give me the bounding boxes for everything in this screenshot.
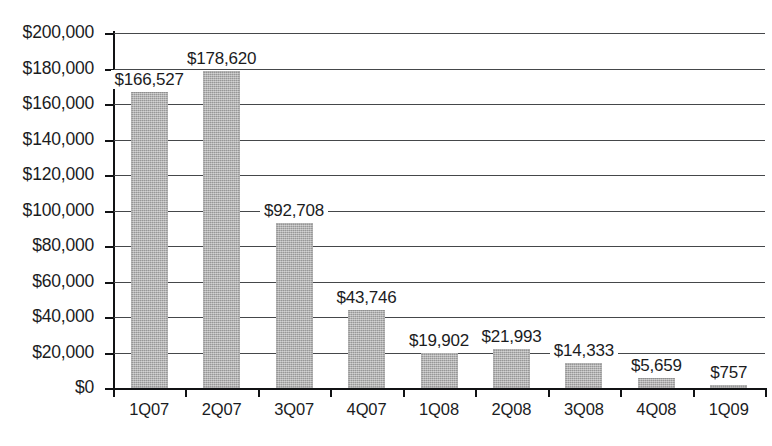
bar-4q08 <box>638 378 675 388</box>
y-tick-mark <box>105 317 114 319</box>
bar-4q07 <box>348 310 385 388</box>
y-tick-mark <box>105 175 114 177</box>
bar-value-label-text: $166,527 <box>111 70 188 89</box>
bar-3q07 <box>276 223 313 388</box>
y-axis-tick-label: $200,000 <box>0 22 94 43</box>
y-tick-mark <box>105 282 114 284</box>
bar-value-label: $92,708 <box>239 201 349 221</box>
y-axis-tick-label: $80,000 <box>0 235 94 256</box>
y-tick-mark <box>105 33 114 35</box>
y-axis-tick-label: $60,000 <box>0 271 94 292</box>
bar-2q07 <box>203 71 240 388</box>
bar-2q08 <box>493 349 530 388</box>
axis-baseline <box>113 388 765 390</box>
y-axis-tick-label: $180,000 <box>0 58 94 79</box>
y-tick-mark <box>105 104 114 106</box>
bar-value-label: $166,527 <box>94 70 204 90</box>
y-axis-tick-label: $40,000 <box>0 306 94 327</box>
y-axis-tick-label: $0 <box>0 377 94 398</box>
y-axis-tick-label: $120,000 <box>0 164 94 185</box>
y-axis-tick-label: $20,000 <box>0 342 94 363</box>
bar-chart: $200,000$180,000$160,000$140,000$120,000… <box>0 0 772 446</box>
bar-1q08 <box>421 353 458 388</box>
x-tick-mark <box>548 388 550 397</box>
bar-value-label: $757 <box>674 363 772 383</box>
y-axis-tick-label: $140,000 <box>0 129 94 150</box>
gridline <box>113 33 765 34</box>
x-tick-mark <box>765 388 767 397</box>
bar-value-label: $43,746 <box>312 288 422 308</box>
y-tick-mark <box>105 353 114 355</box>
x-tick-mark <box>475 388 477 397</box>
bar-value-label: $178,620 <box>167 49 277 69</box>
x-tick-mark <box>693 388 695 397</box>
x-tick-mark <box>330 388 332 397</box>
bar-value-label-text: $178,620 <box>183 49 260 68</box>
x-tick-mark <box>258 388 260 397</box>
y-axis-tick-label: $160,000 <box>0 93 94 114</box>
x-tick-mark <box>185 388 187 397</box>
y-tick-mark <box>105 140 114 142</box>
x-tick-mark <box>113 388 115 397</box>
y-tick-mark <box>105 211 114 213</box>
x-tick-mark <box>403 388 405 397</box>
y-axis-tick-label: $100,000 <box>0 200 94 221</box>
bar-value-label-text: $43,746 <box>333 288 401 307</box>
bar-value-label-text: $92,708 <box>260 201 328 220</box>
x-tick-mark <box>620 388 622 397</box>
bar-1q09 <box>710 385 747 388</box>
y-tick-mark <box>105 246 114 248</box>
bar-3q08 <box>565 363 602 388</box>
bar-1q07 <box>131 92 168 388</box>
bar-value-label-text: $757 <box>706 363 751 382</box>
x-axis-label-1q09: 1Q09 <box>684 400 772 419</box>
